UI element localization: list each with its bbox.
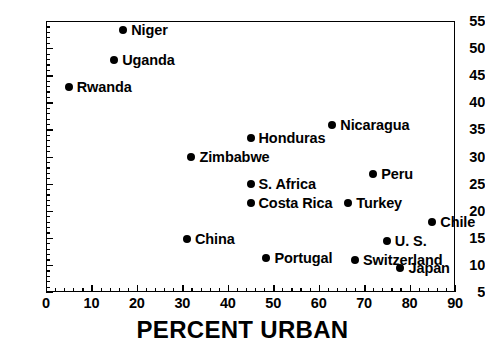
- x-tick-minor: [355, 288, 356, 292]
- x-tick-minor: [391, 288, 392, 292]
- y-tick-minor: [46, 227, 50, 228]
- data-point-label: Honduras: [259, 130, 326, 146]
- y-tick-minor: [46, 108, 50, 109]
- y-tick-minor: [46, 232, 50, 233]
- x-tick-minor: [73, 288, 74, 292]
- x-tick-minor: [119, 288, 120, 292]
- x-tick-minor: [82, 288, 83, 292]
- x-tick-minor: [437, 288, 438, 292]
- x-tick-minor: [164, 288, 165, 292]
- y-tick-label: 10: [445, 257, 485, 273]
- x-tick-label: 20: [117, 295, 157, 311]
- x-tick-minor: [328, 288, 329, 292]
- x-tick-major: [228, 285, 229, 292]
- data-point-marker: [187, 153, 195, 161]
- x-tick-minor: [337, 288, 338, 292]
- y-tick-label: 25: [445, 176, 485, 192]
- y-tick-minor: [46, 113, 50, 114]
- y-tick-label: 50: [445, 40, 485, 56]
- data-point-marker: [262, 254, 270, 262]
- x-tick-label: 50: [253, 295, 293, 311]
- y-tick-minor: [46, 200, 50, 201]
- data-point-marker: [428, 218, 436, 226]
- x-tick-minor: [173, 288, 174, 292]
- data-point-label: Portugal: [274, 250, 332, 266]
- y-tick-major: [46, 75, 53, 76]
- data-point: Zimbabwe: [187, 148, 269, 166]
- x-tick-label: 40: [208, 295, 248, 311]
- data-point-marker: [344, 199, 352, 207]
- y-tick-minor: [46, 70, 50, 71]
- x-tick-minor: [282, 288, 283, 292]
- y-tick-minor: [46, 270, 50, 271]
- x-tick-minor: [191, 288, 192, 292]
- y-tick-major: [46, 21, 53, 22]
- y-tick-minor: [46, 64, 50, 65]
- data-point: Portugal: [262, 248, 332, 266]
- x-tick-minor: [428, 288, 429, 292]
- y-tick-minor: [46, 162, 50, 163]
- y-tick-minor: [46, 119, 50, 120]
- y-tick-label: 45: [445, 67, 485, 83]
- data-point: Honduras: [247, 129, 326, 147]
- data-point-marker: [247, 180, 255, 188]
- x-tick-minor: [300, 288, 301, 292]
- data-point: China: [183, 229, 235, 247]
- data-point-marker: [247, 134, 255, 142]
- data-point-marker: [383, 237, 391, 245]
- y-tick-minor: [46, 276, 50, 277]
- data-point-marker: [65, 83, 73, 91]
- x-tick-minor: [110, 288, 111, 292]
- data-point-label: Niger: [131, 22, 168, 38]
- x-tick-minor: [373, 288, 374, 292]
- x-tick-minor: [382, 288, 383, 292]
- x-tick-label: 60: [299, 295, 339, 311]
- y-tick-major: [46, 129, 53, 130]
- data-point-label: Peru: [381, 166, 413, 182]
- y-tick-minor: [46, 151, 50, 152]
- data-point-marker: [119, 26, 127, 34]
- y-tick-minor: [46, 54, 50, 55]
- data-point-marker: [369, 170, 377, 178]
- y-tick-minor: [46, 249, 50, 250]
- x-tick-minor: [55, 288, 56, 292]
- x-tick-major: [46, 285, 47, 292]
- x-tick-minor: [400, 288, 401, 292]
- x-tick-major: [91, 285, 92, 292]
- data-point: Turkey: [344, 194, 402, 212]
- y-tick-minor: [46, 222, 50, 223]
- data-point-label: Turkey: [356, 195, 402, 211]
- x-tick-minor: [264, 288, 265, 292]
- data-point: Chile: [428, 213, 475, 231]
- x-axis-title: PERCENT URBAN: [0, 316, 485, 344]
- x-tick-minor: [201, 288, 202, 292]
- data-point: S. Africa: [247, 175, 316, 193]
- y-tick-minor: [46, 173, 50, 174]
- data-point-marker: [247, 199, 255, 207]
- data-point: Japan: [396, 259, 449, 277]
- x-tick-minor: [64, 288, 65, 292]
- data-point-label: Zimbabwe: [199, 149, 269, 165]
- data-point: Uganda: [110, 50, 175, 68]
- y-tick-major: [46, 238, 53, 239]
- y-tick-label: 55: [445, 13, 485, 29]
- data-point-marker: [183, 235, 191, 243]
- data-point-label: Nicaragua: [340, 117, 409, 133]
- y-tick-minor: [46, 243, 50, 244]
- data-point: U. S.: [383, 232, 427, 250]
- data-point: Rwanda: [65, 77, 132, 95]
- data-point: Niger: [119, 20, 168, 38]
- y-tick-minor: [46, 281, 50, 282]
- x-tick-label: 70: [344, 295, 384, 311]
- x-tick-minor: [419, 288, 420, 292]
- y-tick-label: 35: [445, 121, 485, 137]
- data-point: Nicaragua: [328, 115, 409, 133]
- y-tick-major: [46, 157, 53, 158]
- data-point-marker: [110, 56, 118, 64]
- x-tick-label: 10: [71, 295, 111, 311]
- x-tick-minor: [101, 288, 102, 292]
- y-tick-major: [46, 211, 53, 212]
- data-point-marker: [351, 256, 359, 264]
- data-point-label: Japan: [408, 260, 449, 276]
- x-tick-minor: [346, 288, 347, 292]
